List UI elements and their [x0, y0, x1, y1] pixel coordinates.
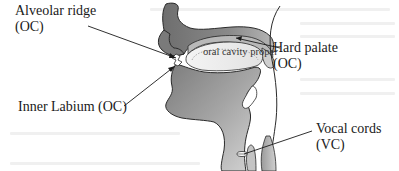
inner-labium-leader	[124, 66, 175, 106]
vocal-cords-region: (VC)	[316, 137, 381, 153]
alveolar-ridge-region: (OC)	[15, 19, 96, 35]
oral-cavity-line1: oral cavity	[203, 46, 248, 57]
vocal-cords-title: Vocal cords	[316, 121, 381, 137]
vocal-cords-leader	[244, 131, 312, 154]
inner-labium-label: Inner Labium (OC)	[18, 99, 127, 115]
anatomy-diagram: Alveolar ridge (OC) Inner Labium (OC) Ha…	[0, 0, 399, 171]
hard-palate-title: Hard palate	[273, 40, 338, 56]
hard-palate-region: (OC)	[273, 56, 338, 72]
pharynx-wall	[270, 6, 280, 160]
trachea	[261, 136, 276, 171]
inner-labium-title: Inner Labium (OC)	[18, 99, 127, 115]
oral-cavity-label: oral cavity proper	[203, 45, 259, 58]
oral-cavity-line2: proper	[250, 46, 277, 57]
hard-palate-label: Hard palate (OC)	[273, 40, 338, 72]
alveolar-ridge-label: Alveolar ridge (OC)	[15, 3, 96, 35]
larynx	[247, 145, 257, 171]
alveolar-ridge-title: Alveolar ridge	[15, 3, 96, 19]
vocal-cords-label: Vocal cords (VC)	[316, 121, 381, 153]
